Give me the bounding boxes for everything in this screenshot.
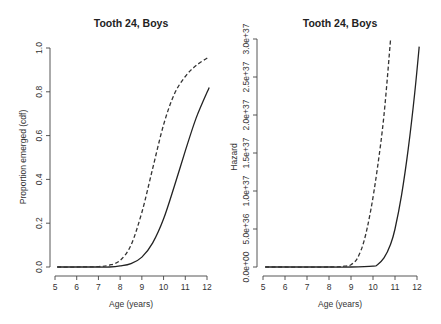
cdf-dashed-line [57, 57, 209, 267]
y-tick-label: 3.0e+37 [241, 23, 251, 54]
hazard-x-axis: 56789101112 [261, 276, 422, 292]
cdf-title: Tooth 24, Boys [94, 17, 169, 29]
cdf-y-axis: 0.00.20.40.60.81.0 [34, 42, 50, 273]
x-tick-label: 11 [181, 282, 190, 292]
y-tick-label: 0.0 [34, 261, 44, 273]
hazard-panel: Tooth 24, Boys 0.0e+005.0e+361.0e+371.5e… [229, 17, 422, 309]
chart-figure: Tooth 24, Boys 0.00.20.40.60.81.0 567891… [0, 0, 441, 324]
y-tick-label: 1.0e+37 [241, 175, 251, 206]
x-tick-label: 8 [327, 282, 332, 292]
hazard-solid-line [265, 47, 419, 267]
x-tick-label: 7 [305, 282, 310, 292]
x-tick-label: 6 [283, 282, 288, 292]
hazard-x-label: Age (years) [318, 299, 362, 309]
x-tick-label: 10 [159, 282, 169, 292]
y-tick-label: 0.6 [34, 129, 44, 141]
y-tick-label: 0.4 [34, 173, 44, 185]
cdf-x-label: Age (years) [109, 299, 153, 309]
cdf-x-axis: 56789101112 [53, 276, 212, 292]
y-tick-label: 1.5e+37 [241, 137, 251, 168]
hazard-dashed-line [265, 39, 390, 267]
y-tick-label: 5.0e+36 [241, 213, 251, 244]
y-tick-label: 2.5e+37 [241, 61, 251, 92]
hazard-y-axis: 0.0e+005.0e+361.0e+371.5e+372.0e+372.5e+… [241, 23, 257, 282]
x-tick-label: 11 [391, 282, 400, 292]
cdf-y-label: Proportion emerged (cdf) [18, 110, 28, 205]
x-tick-label: 5 [53, 282, 58, 292]
hazard-y-label: Hazard [229, 143, 239, 171]
x-tick-label: 9 [349, 282, 354, 292]
y-tick-label: 0.2 [34, 217, 44, 229]
x-tick-label: 5 [261, 282, 266, 292]
x-tick-label: 9 [139, 282, 144, 292]
y-tick-label: 2.0e+37 [241, 99, 251, 130]
x-tick-label: 7 [96, 282, 101, 292]
cdf-solid-line [57, 87, 209, 267]
x-tick-label: 6 [74, 282, 79, 292]
y-tick-label: 1.0 [34, 42, 44, 54]
x-tick-label: 12 [412, 282, 422, 292]
x-tick-label: 12 [202, 282, 212, 292]
hazard-title: Tooth 24, Boys [303, 17, 378, 29]
x-tick-label: 10 [368, 282, 378, 292]
cdf-panel: Tooth 24, Boys 0.00.20.40.60.81.0 567891… [18, 17, 212, 309]
x-tick-label: 8 [118, 282, 123, 292]
y-tick-label: 0.8 [34, 86, 44, 98]
y-tick-label: 0.0e+00 [241, 251, 251, 282]
